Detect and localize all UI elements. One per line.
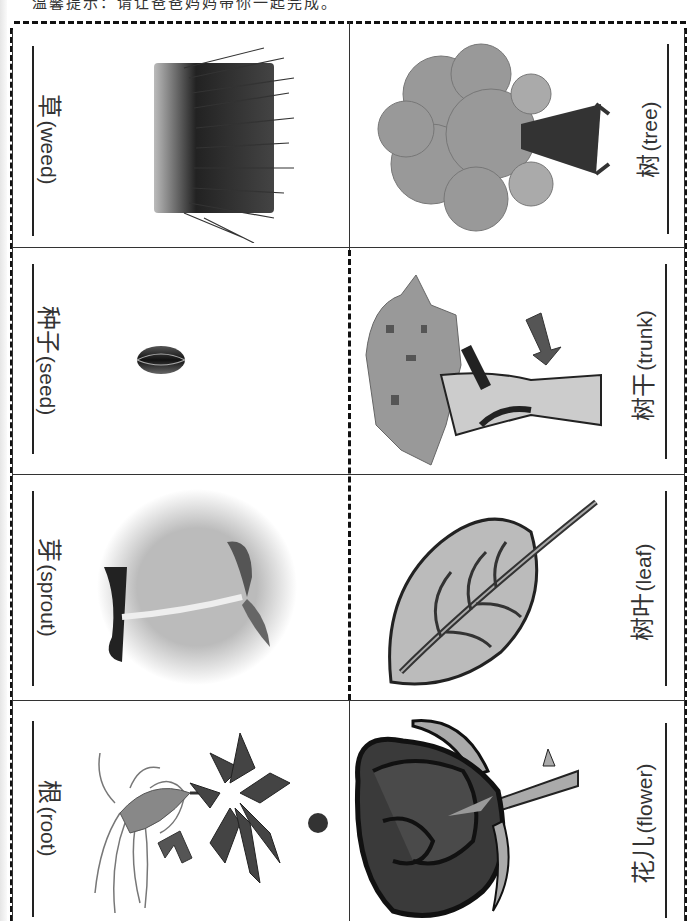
- label-zh: 草: [34, 94, 69, 118]
- card-label: 根 (root): [34, 780, 69, 856]
- seed-picture: [129, 330, 189, 390]
- card-label: 草 (weed): [34, 94, 69, 184]
- label-zh: 芽: [34, 538, 69, 562]
- card-label: 树干 (trunk): [624, 310, 659, 421]
- card-sprout: 芽 (sprout): [14, 477, 348, 699]
- label-zh: 树干: [624, 372, 659, 420]
- card-label: 树叶 (leaf): [624, 543, 659, 641]
- row-divider-1: [12, 247, 685, 248]
- card-trunk: 树干 (trunk): [351, 250, 683, 472]
- label-zh: 种子: [34, 305, 69, 353]
- label-en: (seed): [36, 355, 60, 415]
- card-flower: 花儿 (flower): [351, 703, 683, 921]
- frame-right: [684, 30, 685, 921]
- weed-grass-picture: [144, 38, 304, 243]
- label-en: (leaf): [633, 543, 657, 591]
- card-seed: 种子 (seed): [14, 250, 348, 472]
- tree-picture: [371, 34, 611, 239]
- label-zh: 花儿: [624, 835, 659, 883]
- label-line: [665, 264, 667, 459]
- root-picture: [90, 713, 330, 918]
- card-tree: 树 (tree): [351, 24, 683, 246]
- label-en: (trunk): [633, 310, 657, 371]
- label-en: (sprout): [36, 564, 60, 636]
- label-en: (weed): [36, 120, 60, 184]
- card-label: 花儿 (flower): [624, 763, 659, 883]
- trunk-picture: [361, 265, 611, 470]
- flower-picture: [353, 711, 583, 921]
- frame-center-top: [349, 22, 350, 250]
- label-en: (tree): [638, 101, 662, 151]
- notice-text: 温馨提示：请让爸爸妈妈带你一起完成。: [32, 0, 338, 12]
- leaf-picture: [381, 492, 611, 692]
- label-line: [665, 723, 667, 918]
- label-en: (root): [36, 806, 60, 856]
- label-line: [667, 44, 669, 234]
- card-label: 树 (tree): [629, 101, 664, 177]
- label-zh: 树叶: [624, 593, 659, 641]
- sprout-picture: [92, 487, 302, 687]
- card-label: 种子 (seed): [34, 305, 69, 415]
- frame-left: [12, 30, 13, 921]
- label-en: (flower): [633, 763, 657, 833]
- row-divider-2: [12, 474, 685, 475]
- card-leaf: 树叶 (leaf): [351, 477, 683, 699]
- frame-center-bottom: [349, 700, 350, 921]
- label-zh: 根: [34, 780, 69, 804]
- row-divider-3: [12, 700, 685, 701]
- card-label: 芽 (sprout): [34, 538, 69, 636]
- label-line: [665, 491, 667, 686]
- label-zh: 树: [629, 153, 664, 177]
- card-weed: 草 (weed): [14, 24, 348, 246]
- page-edge-shadow: [0, 0, 7, 921]
- card-root: 根 (root): [14, 703, 348, 921]
